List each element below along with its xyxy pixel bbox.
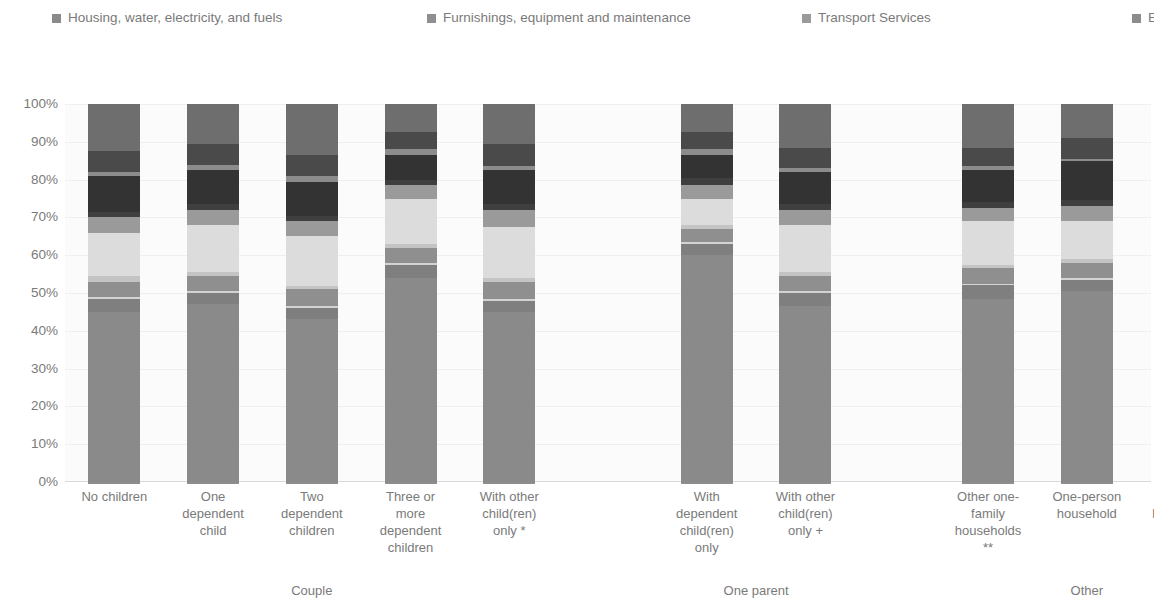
bar-segment[interactable] xyxy=(385,248,437,263)
bar-segment[interactable] xyxy=(286,308,338,319)
category-tick xyxy=(779,482,831,484)
bar-segment[interactable] xyxy=(1061,263,1113,278)
bar-segment[interactable] xyxy=(385,132,437,149)
bar-segment[interactable] xyxy=(962,104,1014,147)
bar-segment[interactable] xyxy=(286,155,338,176)
bar-segment[interactable] xyxy=(962,299,1014,482)
category-label-line: Three or xyxy=(368,488,454,505)
bar-2[interactable] xyxy=(187,104,239,482)
bar-segment[interactable] xyxy=(962,148,1014,167)
bar-segment[interactable] xyxy=(779,306,831,482)
bar-segment[interactable] xyxy=(681,104,733,132)
group-label-1: Couple xyxy=(88,583,535,599)
bar-segment[interactable] xyxy=(385,104,437,132)
bar-segment[interactable] xyxy=(779,104,831,147)
bar-segment[interactable] xyxy=(681,178,733,186)
category-tick xyxy=(88,482,140,484)
bar-segment[interactable] xyxy=(483,210,535,227)
bar-segment[interactable] xyxy=(1061,291,1113,482)
bar-4[interactable] xyxy=(385,104,437,482)
bar-segment[interactable] xyxy=(962,285,1014,298)
bar-segment[interactable] xyxy=(88,151,140,172)
bar-segment[interactable] xyxy=(88,104,140,151)
category-label-line: With other xyxy=(466,488,552,505)
legend-item-label: Housing, water, electricity, and fuels xyxy=(68,8,282,28)
category-label-line: more xyxy=(368,505,454,522)
category-label: One-personhousehold xyxy=(1044,488,1130,522)
bar-segment[interactable] xyxy=(779,225,831,272)
bar-segment[interactable] xyxy=(962,268,1014,283)
bar-segment[interactable] xyxy=(962,170,1014,202)
bar-segment[interactable] xyxy=(681,199,733,225)
bar-segment[interactable] xyxy=(681,229,733,242)
bar-segment[interactable] xyxy=(483,227,535,278)
bar-segment[interactable] xyxy=(1061,161,1113,201)
bar-segment[interactable] xyxy=(1061,138,1113,159)
bar-segment[interactable] xyxy=(286,104,338,155)
bar-segment[interactable] xyxy=(779,210,831,225)
bar-segment[interactable] xyxy=(483,104,535,144)
bar-segment[interactable] xyxy=(187,225,239,272)
bar-segment[interactable] xyxy=(962,221,1014,264)
bar-segment[interactable] xyxy=(187,144,239,165)
bar-segment[interactable] xyxy=(779,172,831,204)
bar-3[interactable] xyxy=(286,104,338,482)
y-axis-tick-label: 10% xyxy=(0,437,58,451)
bar-segment[interactable] xyxy=(187,304,239,482)
bar-segment[interactable] xyxy=(385,185,437,198)
bar-segment[interactable] xyxy=(681,255,733,482)
bar-segment[interactable] xyxy=(962,208,1014,221)
bar-segment[interactable] xyxy=(286,221,338,236)
bar-segment[interactable] xyxy=(187,293,239,304)
group-label-3: Other xyxy=(962,583,1154,599)
bar-segment[interactable] xyxy=(286,319,338,482)
bar-7[interactable] xyxy=(779,104,831,482)
bar-9[interactable] xyxy=(1061,104,1113,482)
bar-segment[interactable] xyxy=(779,276,831,291)
bar-segment[interactable] xyxy=(385,265,437,278)
category-tick xyxy=(1061,482,1113,484)
bar-segment[interactable] xyxy=(385,199,437,244)
bar-segment[interactable] xyxy=(88,299,140,312)
bar-segment[interactable] xyxy=(483,170,535,204)
bar-segment[interactable] xyxy=(1061,221,1113,259)
bar-5[interactable] xyxy=(483,104,535,482)
bar-segment[interactable] xyxy=(1061,206,1113,221)
bar-segment[interactable] xyxy=(1061,104,1113,138)
bar-segment[interactable] xyxy=(286,236,338,285)
bar-8[interactable] xyxy=(962,104,1014,482)
category-label-line: dependent xyxy=(269,505,355,522)
legend-item-label: Education xyxy=(1148,8,1154,28)
bar-segment[interactable] xyxy=(681,155,733,178)
bar-segment[interactable] xyxy=(187,276,239,291)
bar-segment[interactable] xyxy=(779,148,831,169)
bar-segment[interactable] xyxy=(483,282,535,299)
bar-segment[interactable] xyxy=(88,176,140,212)
bar-segment[interactable] xyxy=(187,104,239,144)
bar-segment[interactable] xyxy=(88,233,140,276)
bar-segment[interactable] xyxy=(187,170,239,204)
bar-segment[interactable] xyxy=(187,210,239,225)
bar-6[interactable] xyxy=(681,104,733,482)
category-label: Withdependentchild(ren)only xyxy=(664,488,750,556)
bar-segment[interactable] xyxy=(483,144,535,167)
legend-swatch-icon xyxy=(52,14,61,23)
bar-segment[interactable] xyxy=(1061,280,1113,291)
bar-segment[interactable] xyxy=(681,185,733,198)
bar-segment[interactable] xyxy=(483,312,535,482)
bar-segment[interactable] xyxy=(385,155,437,180)
plot-area xyxy=(65,104,1151,482)
bar-segment[interactable] xyxy=(88,312,140,482)
bar-segment[interactable] xyxy=(88,282,140,297)
bar-segment[interactable] xyxy=(681,132,733,149)
bar-segment[interactable] xyxy=(483,301,535,312)
bar-segment[interactable] xyxy=(286,289,338,306)
bar-segment[interactable] xyxy=(286,182,338,216)
bar-1[interactable] xyxy=(88,104,140,482)
category-label: Other one-familyhouseholds** xyxy=(945,488,1031,556)
bar-segment[interactable] xyxy=(681,244,733,255)
y-axis-tick-label: 40% xyxy=(0,324,58,338)
bar-segment[interactable] xyxy=(385,278,437,482)
bar-segment[interactable] xyxy=(779,293,831,306)
bar-segment[interactable] xyxy=(88,217,140,232)
